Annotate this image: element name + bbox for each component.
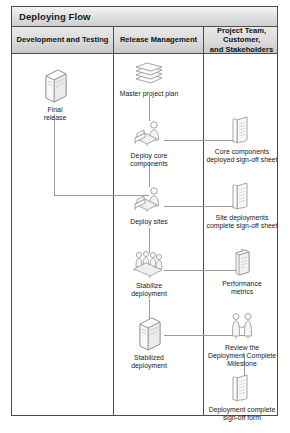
column-header-label: Release Management (120, 35, 197, 45)
document-icon (230, 374, 254, 404)
node-label-line1: Review the (225, 344, 259, 351)
node-deployment-complete-signoff-form[interactable]: Deployment complete sign-off form (205, 374, 279, 422)
node-label-line1: Site deployments (216, 214, 269, 221)
node-label-line3: Milestone (227, 360, 257, 367)
node-label: Review the Deployment Complete Milestone (208, 344, 276, 369)
node-label: Deploy core components (130, 152, 168, 168)
node-label: Deploy sites (130, 218, 168, 226)
node-label-line2: deployed sign-off sheet (206, 156, 277, 163)
node-label-line2: release (44, 114, 67, 121)
node-core-components-signoff-sheet[interactable]: Core components deployed sign-off sheet (205, 116, 279, 164)
node-label-line2: deployment (131, 362, 167, 369)
node-label: Deployment complete sign-off form (209, 406, 276, 422)
person-at-workstation-icon (131, 120, 167, 150)
document-stack-icon (132, 62, 166, 88)
document-icon (230, 116, 254, 146)
server-tower-icon (41, 68, 69, 104)
connector-final-release-down (54, 114, 55, 195)
column-header-line2: and Stakeholders (210, 45, 273, 54)
node-label-line1: Final (48, 106, 63, 113)
server-tower-icon (135, 316, 163, 352)
swimlane-body: Final release Master project plan (12, 54, 277, 416)
column-header-line1: Project Team, Customer, (217, 26, 266, 45)
column-header-label: Project Team, Customer, and Stakeholders (207, 26, 276, 55)
node-deploy-core-components[interactable]: Deploy core components (117, 120, 181, 168)
diagram-title: Deploying Flow (12, 11, 91, 22)
column-header-label: Development and Testing (17, 35, 109, 45)
node-label: Stabilized deployment (131, 354, 167, 370)
node-label-line1: Deploy core (131, 152, 168, 159)
clipboard-icon (230, 248, 254, 278)
node-performance-metrics[interactable]: Performance metrics (205, 248, 279, 296)
column-header-project-team-customer-and-stakeholders: Project Team, Customer, and Stakeholders (203, 27, 279, 53)
node-label: Core components deployed sign-off sheet (206, 148, 277, 164)
node-label: Master project plan (120, 90, 179, 98)
node-label-line1: Stabilize (136, 282, 162, 289)
swimlane-header-row: Development and Testing Release Manageme… (12, 27, 277, 54)
node-master-project-plan[interactable]: Master project plan (117, 62, 181, 98)
node-label-line2: components (130, 160, 168, 167)
diagram-title-bar: Deploying Flow (12, 7, 277, 27)
deploying-flow-diagram: Deploying Flow Development and Testing R… (11, 6, 278, 416)
document-icon (230, 182, 254, 212)
lane-divider-1 (113, 54, 114, 416)
node-stabilize-deployment[interactable]: Stabilize deployment (117, 250, 181, 298)
node-label-line1: Deployment complete (209, 406, 276, 413)
node-site-deployments-signoff-sheet[interactable]: Site deployments complete sign-off sheet (205, 182, 279, 230)
person-at-workstation-icon (131, 186, 167, 216)
node-label: Performance metrics (222, 280, 261, 296)
node-label-line1: Performance (222, 280, 261, 287)
node-label-line1: Stabilized (134, 354, 164, 361)
node-label-line2: deployment (131, 290, 167, 297)
node-label-line1: Core components (215, 148, 269, 155)
node-label-line1: Deploy sites (130, 218, 168, 225)
column-header-development-and-testing: Development and Testing (12, 27, 113, 53)
node-label-line2: Deployment Complete (208, 352, 276, 359)
node-final-release[interactable]: Final release (34, 68, 76, 122)
node-label-line1: Master project plan (120, 90, 179, 97)
node-label-line2: complete sign-off sheet (206, 222, 277, 229)
connector-master-plan-to-deploy-core (149, 96, 150, 121)
node-label-line2: sign-off form (223, 414, 261, 421)
node-label-line2: metrics (231, 288, 253, 295)
node-label: Final release (44, 106, 67, 122)
node-label: Stabilize deployment (131, 282, 167, 298)
node-review-deployment-complete-milestone[interactable]: Review the Deployment Complete Milestone (202, 312, 282, 369)
group-of-people-icon (130, 250, 168, 280)
node-label: Site deployments complete sign-off sheet (206, 214, 277, 230)
two-people-handshake-icon (226, 312, 258, 342)
node-stabilized-deployment[interactable]: Stabilized deployment (117, 316, 181, 370)
node-deploy-sites[interactable]: Deploy sites (117, 186, 181, 226)
column-header-release-management: Release Management (113, 27, 203, 53)
